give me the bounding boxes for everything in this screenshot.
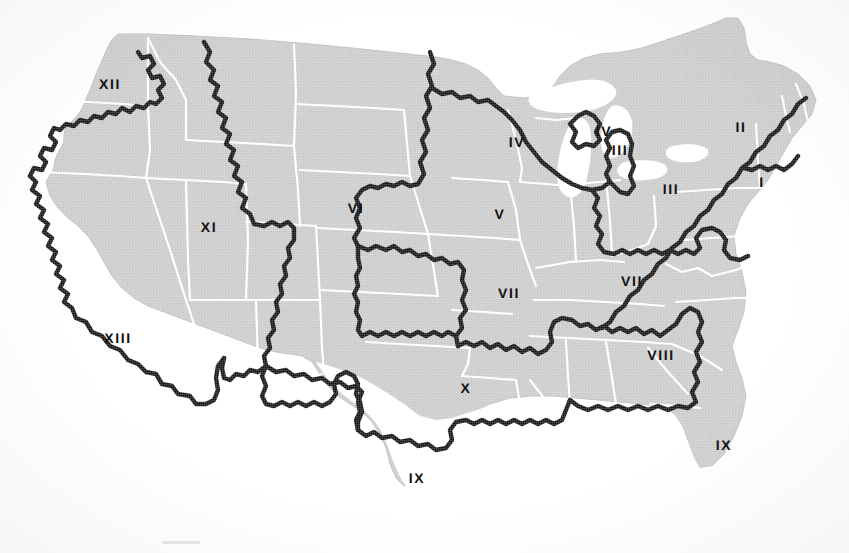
us-region-map	[0, 0, 849, 553]
scan-artifact	[162, 541, 200, 544]
map-figure: I II III III IV IV V VI VII VII VIII IX …	[0, 0, 849, 553]
